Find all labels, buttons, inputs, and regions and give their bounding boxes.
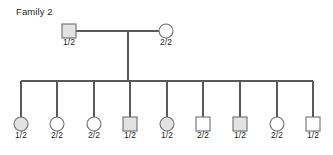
genotype-label-child-8: 2/2 xyxy=(271,130,283,140)
female-symbol-child-1[interactable] xyxy=(14,117,28,131)
genotype-label-mother: 2/2 xyxy=(160,37,172,47)
genotype-label-child-4: 1/2 xyxy=(124,130,136,140)
genotype-label-child-1: 1/2 xyxy=(15,130,27,140)
genotype-label-child-5: 1/2 xyxy=(161,130,173,140)
male-symbol-child-6[interactable] xyxy=(196,117,210,131)
pedigree-chart: Family 2 1/22/21/22/22/21/21/22/21/22/21… xyxy=(0,0,333,155)
genotype-label-child-2: 2/2 xyxy=(51,130,63,140)
pedigree-member-child-5[interactable]: 1/2 xyxy=(160,117,174,140)
female-symbol-child-5[interactable] xyxy=(160,117,174,131)
pedigree-member-child-7[interactable]: 1/2 xyxy=(233,117,247,140)
female-symbol-mother[interactable] xyxy=(159,24,173,38)
male-symbol-father[interactable] xyxy=(62,24,76,38)
pedigree-member-child-2[interactable]: 2/2 xyxy=(50,117,64,140)
genotype-label-father: 1/2 xyxy=(63,37,75,47)
male-symbol-child-9[interactable] xyxy=(306,117,320,131)
female-symbol-child-3[interactable] xyxy=(87,117,101,131)
pedigree-member-father[interactable]: 1/2 xyxy=(62,24,76,47)
pedigree-diagram: 1/22/21/22/22/21/21/22/21/22/21/2 xyxy=(0,0,333,155)
female-symbol-child-8[interactable] xyxy=(270,117,284,131)
male-symbol-child-4[interactable] xyxy=(123,117,137,131)
genotype-label-child-3: 2/2 xyxy=(88,130,100,140)
pedigree-member-child-8[interactable]: 2/2 xyxy=(270,117,284,140)
male-symbol-child-7[interactable] xyxy=(233,117,247,131)
pedigree-member-child-4[interactable]: 1/2 xyxy=(123,117,137,140)
genotype-label-child-6: 2/2 xyxy=(197,130,209,140)
pedigree-member-child-1[interactable]: 1/2 xyxy=(14,117,28,140)
pedigree-member-child-3[interactable]: 2/2 xyxy=(87,117,101,140)
pedigree-member-mother[interactable]: 2/2 xyxy=(159,24,173,47)
female-symbol-child-2[interactable] xyxy=(50,117,64,131)
pedigree-member-child-6[interactable]: 2/2 xyxy=(196,117,210,140)
genotype-label-child-9: 1/2 xyxy=(307,130,319,140)
pedigree-member-child-9[interactable]: 1/2 xyxy=(306,117,320,140)
genotype-label-child-7: 1/2 xyxy=(234,130,246,140)
